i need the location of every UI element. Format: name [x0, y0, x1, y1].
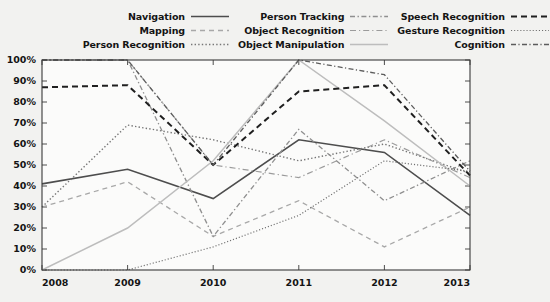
y-tick-label: 80%: [13, 96, 36, 107]
y-tick-label: 30%: [13, 201, 36, 212]
legend-label-gesture-recognition: Gesture Recognition: [397, 25, 505, 36]
legend-item-object-manipulation: Object Manipulation: [238, 38, 389, 51]
legend-item-speech-recognition: Speech Recognition: [397, 10, 550, 23]
legend-label-speech-recognition: Speech Recognition: [401, 11, 505, 22]
legend-label-object-recognition: Object Recognition: [244, 25, 344, 36]
x-tick-label: 2012: [371, 277, 397, 288]
y-axis-labels: 0%10%20%30%40%50%60%70%80%90%100%: [7, 54, 37, 275]
legend-item-object-recognition: Object Recognition: [238, 24, 389, 37]
x-tick-label: 2013: [444, 277, 470, 288]
legend-item-cognition: Cognition: [397, 38, 550, 51]
legend-item-person-tracking: Person Tracking: [238, 10, 389, 23]
legend-item-navigation: Navigation: [88, 10, 230, 23]
chart-legend: Navigation Mapping Person Recognition: [0, 10, 480, 52]
legend-item-mapping: Mapping: [88, 24, 230, 37]
legend-swatch-gesture-recognition: [510, 25, 550, 36]
legend-column-3: Speech Recognition Gesture Recognition C…: [397, 10, 550, 51]
legend-label-person-recognition: Person Recognition: [83, 39, 185, 50]
legend-label-mapping: Mapping: [139, 25, 185, 36]
x-tick-label: 2008: [42, 277, 69, 288]
y-tick-label: 100%: [7, 54, 37, 65]
chart-plot-area: 0%10%20%30%40%50%60%70%80%90%100% 200820…: [0, 52, 480, 302]
y-tick-label: 90%: [13, 75, 36, 86]
legend-item-person-recognition: Person Recognition: [88, 38, 230, 51]
legend-swatch-cognition: [510, 39, 550, 50]
legend-column-1: Navigation Mapping Person Recognition: [88, 10, 230, 51]
x-axis-labels: 200820092010201120122013: [42, 277, 470, 288]
legend-swatch-navigation: [190, 11, 230, 22]
legend-swatch-speech-recognition: [510, 11, 550, 22]
y-tick-label: 10%: [13, 243, 36, 254]
legend-swatch-person-tracking: [349, 11, 389, 22]
legend-swatch-person-recognition: [190, 39, 230, 50]
legend-column-2: Person Tracking Object Recognition Objec…: [238, 10, 389, 51]
y-tick-label: 20%: [13, 222, 36, 233]
legend-swatch-object-recognition: [349, 25, 389, 36]
x-tick-label: 2011: [286, 277, 312, 288]
legend-label-navigation: Navigation: [128, 11, 185, 22]
y-tick-label: 70%: [13, 117, 36, 128]
x-tick-label: 2009: [114, 277, 140, 288]
line-chart-svg: 0%10%20%30%40%50%60%70%80%90%100% 200820…: [0, 52, 480, 302]
y-tick-label: 50%: [13, 159, 36, 170]
y-tick-label: 60%: [13, 138, 36, 149]
y-tick-label: 40%: [13, 180, 36, 191]
x-tick-label: 2010: [200, 277, 227, 288]
legend-label-object-manipulation: Object Manipulation: [238, 39, 344, 50]
legend-item-gesture-recognition: Gesture Recognition: [397, 24, 550, 37]
legend-swatch-mapping: [190, 25, 230, 36]
y-tick-label: 0%: [20, 264, 37, 275]
legend-label-person-tracking: Person Tracking: [260, 11, 344, 22]
legend-label-cognition: Cognition: [454, 39, 505, 50]
legend-swatch-object-manipulation: [349, 39, 389, 50]
